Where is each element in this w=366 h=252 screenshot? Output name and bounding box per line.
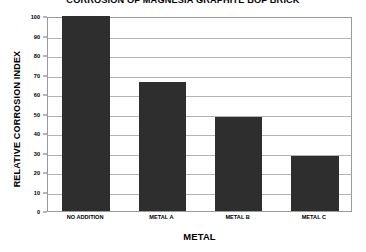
y-tick-label: 30 [34, 151, 40, 157]
y-axis-ticks: 0102030405060708090100 [0, 17, 47, 212]
bar-chart-figure: CORROSION OF MAGNESIA GRAPHITE BOF BRICK… [0, 0, 366, 252]
y-tick-label: 80 [34, 53, 40, 59]
bars-group [48, 18, 351, 211]
bar [215, 117, 262, 211]
y-tick-label: 10 [34, 190, 40, 196]
y-tick-label: 70 [34, 73, 40, 79]
x-tick-label: METAL B [225, 214, 249, 220]
bar [291, 156, 338, 211]
y-tick-label: 90 [34, 34, 40, 40]
y-tick-label: 60 [34, 92, 40, 98]
x-axis-ticks: NO ADDITIONMETAL AMETAL BMETAL C [47, 214, 352, 226]
bar [62, 16, 109, 211]
y-tick-label: 50 [34, 112, 40, 118]
x-tick-label: METAL C [302, 214, 326, 220]
plot-area [47, 17, 352, 212]
y-tick-label: 100 [31, 14, 40, 20]
y-tick-label: 40 [34, 131, 40, 137]
x-tick-label: NO ADDITION [67, 214, 104, 220]
y-tick-label: 20 [34, 170, 40, 176]
y-tick-label: 0 [37, 209, 40, 215]
bar [139, 82, 186, 211]
x-tick-label: METAL A [149, 214, 173, 220]
chart-title: CORROSION OF MAGNESIA GRAPHITE BOF BRICK [0, 0, 366, 5]
x-axis-title: METAL [47, 231, 352, 242]
